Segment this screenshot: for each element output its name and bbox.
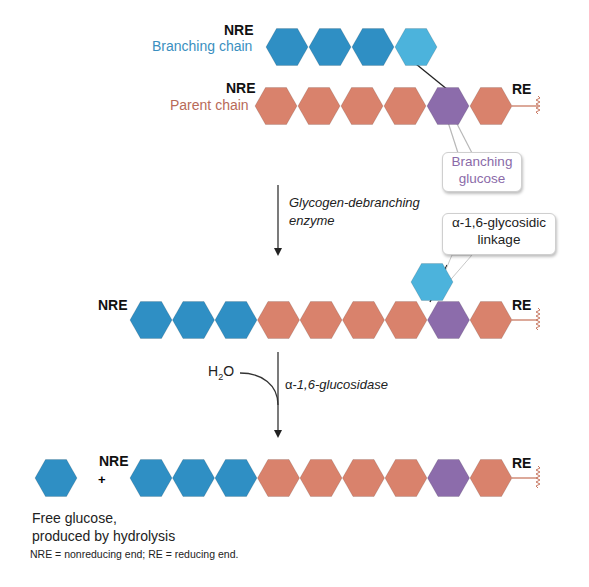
parent_chain-glucose-2	[341, 88, 383, 125]
branching_chain-glucose-2	[352, 29, 394, 66]
debranching-enzyme-label: Glycogen-debranching enzyme	[289, 194, 420, 230]
re-label-row4: RE	[512, 455, 531, 471]
after_hydrolysis-glucose-0	[130, 460, 172, 497]
parent-chain-label: Parent chain	[170, 97, 249, 113]
branching_chain-glucose-0	[266, 29, 308, 66]
free-glucose-label: Free glucose, produced by hydrolysis	[32, 509, 175, 545]
after_hydrolysis-glucose-2	[215, 460, 257, 497]
after_hydrolysis-glucose-3	[258, 460, 300, 497]
branching-chain-label: Branching chain	[152, 38, 252, 54]
re-label-row3: RE	[512, 297, 531, 313]
glucosidase-label: α-1,6-glucosidase	[285, 377, 388, 392]
after_hydrolysis-glucose-8	[470, 460, 512, 497]
after_hydrolysis-glucose-4	[300, 460, 342, 497]
after_transfer-glucose-0	[130, 302, 172, 339]
nre-label-row3: NRE	[98, 297, 128, 313]
after_hydrolysis-glucose-5	[343, 460, 385, 497]
after_hydrolysis-glucose-1	[173, 460, 215, 497]
linkage-callout: α-1,6-glycosidic linkage	[442, 213, 556, 255]
after_transfer-glucose-8	[470, 302, 512, 339]
parent_chain-glucose-5	[470, 88, 512, 125]
re-label-parent: RE	[512, 81, 531, 97]
footnote: NRE = nonreducing end; RE = reducing end…	[30, 548, 238, 560]
nre-label-branching: NRE	[224, 22, 254, 38]
branching_chain-glucose-3	[395, 29, 437, 66]
after_transfer-glucose-7	[428, 302, 470, 339]
plus-sign: +	[98, 472, 106, 487]
after_transfer-glucose-2	[215, 302, 257, 339]
after_hydrolysis-glucose-6	[385, 460, 427, 497]
callout-pointer-1	[448, 122, 458, 153]
water-label: H2O	[208, 363, 234, 382]
after_transfer-glucose-5	[343, 302, 385, 339]
parent_chain-glucose-3	[384, 88, 426, 125]
parent_chain-glucose-4	[427, 88, 469, 125]
nre-label-row4: NRE	[99, 453, 129, 469]
after_transfer-glucose-4	[300, 302, 342, 339]
parent_chain-glucose-0	[255, 88, 297, 125]
after_transfer-glucose-6	[385, 302, 427, 339]
free-glucose	[35, 460, 77, 497]
diagram-canvas	[0, 0, 589, 587]
water-arrow	[240, 373, 278, 405]
after_transfer-glucose-3	[258, 302, 300, 339]
branching-glucose-callout: Branching glucose	[442, 152, 522, 192]
after_transfer-glucose-1	[173, 302, 215, 339]
after_hydrolysis-glucose-7	[428, 460, 470, 497]
parent_chain-glucose-1	[298, 88, 340, 125]
branching_chain-glucose-1	[309, 29, 351, 66]
nre-label-parent: NRE	[226, 80, 256, 96]
branch-link-line	[416, 64, 448, 90]
